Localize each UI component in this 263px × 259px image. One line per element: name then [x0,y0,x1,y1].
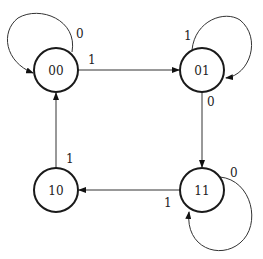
transition-10-00: 1 [56,93,74,168]
state-diagram: 0 1 1 0 0 1 1 00 01 10 [0,0,263,259]
state-11: 11 [180,168,224,212]
transition-00-01: 1 [78,53,179,70]
transition-label: 1 [66,152,74,166]
transition-label: 0 [76,27,84,41]
transition-01-11: 0 [202,92,215,167]
state-label: 11 [194,184,209,198]
transition-label: 0 [207,95,215,109]
state-label: 10 [48,184,63,198]
state-10: 10 [34,168,78,212]
transition-label: 1 [164,196,172,210]
transition-11-10: 1 [79,190,180,210]
transition-label: 1 [184,29,192,43]
state-00: 00 [34,48,78,92]
state-label: 01 [194,64,209,78]
transition-label: 0 [230,166,238,180]
transition-label: 1 [88,53,96,67]
state-label: 00 [48,64,63,78]
state-01: 01 [180,48,224,92]
